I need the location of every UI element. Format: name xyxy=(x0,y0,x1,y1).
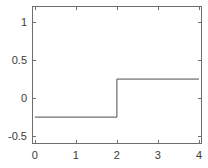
x-tick-label: 0 xyxy=(32,150,38,161)
x-tick-label: 4 xyxy=(196,150,202,161)
x-tick-label: 1 xyxy=(73,150,79,161)
y-tick-label: 0.5 xyxy=(12,55,27,66)
x-tick-label: 2 xyxy=(114,150,120,161)
plot-canvas xyxy=(0,0,208,168)
plot-background xyxy=(32,6,201,143)
y-tick-label: 0 xyxy=(21,93,27,104)
figure-container: -0.500.51 01234 xyxy=(0,0,208,168)
y-tick-label: 1 xyxy=(21,16,27,27)
y-tick-label: -0.5 xyxy=(8,131,27,142)
x-tick-label: 3 xyxy=(155,150,161,161)
